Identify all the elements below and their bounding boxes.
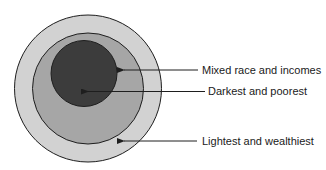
label-mixed-race: Mixed race and incomes xyxy=(202,64,321,76)
inner-circle-darkest-poorest xyxy=(51,41,117,107)
label-lightest-wealthiest: Lightest and wealthiest xyxy=(202,135,314,147)
label-darkest-poorest: Darkest and poorest xyxy=(208,85,307,97)
